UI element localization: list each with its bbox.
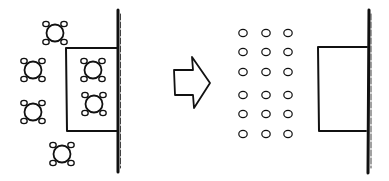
chair [239,48,247,55]
chair [239,110,247,117]
chair [50,160,56,165]
chair [68,142,74,147]
table-top [25,104,42,121]
after-layout [239,10,371,173]
chair [262,48,270,55]
chair [262,110,270,117]
chair [284,91,292,98]
transform-arrow-icon [174,57,210,108]
chair [284,68,292,75]
chair [239,68,247,75]
chair [262,130,270,137]
chair [99,76,105,81]
round-table [81,58,105,81]
chair [284,48,292,55]
table-top [54,146,71,163]
round-table [21,100,45,123]
layout-diagram [0,0,389,181]
chair [81,76,87,81]
chair [21,58,27,63]
chair [43,39,49,44]
chair [284,110,292,117]
chair [21,76,27,81]
chair [262,91,270,98]
before-layout [21,10,121,172]
chair [81,58,87,63]
chair [99,58,105,63]
chair [39,118,45,123]
round-table [50,142,74,165]
chair [43,21,49,26]
right-stage [318,47,367,131]
table-top [86,96,103,113]
chair [239,130,247,137]
chair [100,110,106,115]
round-table [82,92,106,115]
round-tables [21,21,106,165]
table-top [85,62,102,79]
round-table [21,58,45,81]
chair [262,29,270,36]
chair [82,110,88,115]
chair [262,68,270,75]
right-wall [368,10,369,173]
chair [100,92,106,97]
table-top [25,62,42,79]
chair [39,100,45,105]
chair [68,160,74,165]
chair [239,91,247,98]
chair [284,29,292,36]
chair [21,100,27,105]
left-stage [66,48,117,131]
chair [239,29,247,36]
chair-grid [239,29,292,137]
chair [39,76,45,81]
round-table [43,21,67,44]
chair [61,39,67,44]
chair [284,130,292,137]
chair [50,142,56,147]
chair [39,58,45,63]
table-top [47,25,64,42]
chair [21,118,27,123]
chair [61,21,67,26]
chair [82,92,88,97]
